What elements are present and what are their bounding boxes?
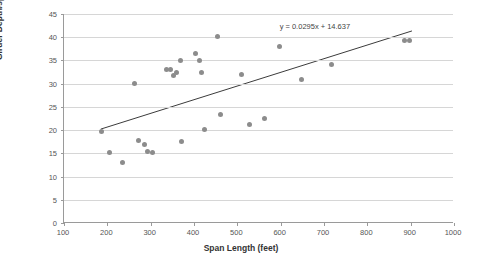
gridline-horizontal [64, 84, 453, 85]
y-tick-mark [61, 200, 64, 201]
y-tick-label: 25 [35, 102, 57, 111]
y-tick-mark [61, 84, 64, 85]
y-tick-label: 10 [35, 172, 57, 181]
data-point [202, 127, 207, 132]
x-axis-title: Span Length (feet) [0, 243, 482, 253]
x-tick-mark [107, 223, 108, 226]
gridline-horizontal [64, 14, 453, 15]
x-tick-mark [324, 223, 325, 226]
x-tick-label: 300 [133, 228, 167, 237]
data-point [168, 67, 173, 72]
data-point [407, 38, 412, 43]
x-tick-mark [367, 223, 368, 226]
x-tick-mark [151, 223, 152, 226]
y-tick-label: 30 [35, 79, 57, 88]
data-point [145, 149, 150, 154]
gridline-horizontal [64, 107, 453, 108]
data-point [107, 150, 112, 155]
x-tick-label: 200 [89, 228, 123, 237]
gridline-horizontal [64, 153, 453, 154]
x-tick-mark [64, 223, 65, 226]
data-point [136, 138, 141, 143]
y-tick-label: 0 [35, 219, 57, 228]
gridline-horizontal [64, 60, 453, 61]
x-tick-label: 700 [306, 228, 340, 237]
scatter-chart: Girder Depth/span Ratio at tower (1:) y … [0, 0, 482, 279]
gridline-horizontal [64, 37, 453, 38]
plot-area [63, 14, 453, 223]
gridline-horizontal [64, 177, 453, 178]
gridline-horizontal [64, 200, 453, 201]
y-tick-mark [61, 107, 64, 108]
gridline-horizontal [64, 130, 453, 131]
x-tick-mark [237, 223, 238, 226]
x-tick-label: 900 [393, 228, 427, 237]
y-tick-label: 5 [35, 195, 57, 204]
x-tick-label: 1000 [436, 228, 470, 237]
y-tick-label: 45 [35, 10, 57, 19]
x-tick-mark [454, 223, 455, 226]
y-tick-label: 15 [35, 149, 57, 158]
y-tick-mark [61, 60, 64, 61]
y-tick-mark [61, 37, 64, 38]
x-tick-label: 600 [263, 228, 297, 237]
x-tick-mark [281, 223, 282, 226]
trendline-equation: y = 0.0295x + 14.637 [280, 22, 350, 31]
x-tick-label: 400 [176, 228, 210, 237]
x-tick-mark [194, 223, 195, 226]
data-point [329, 62, 334, 67]
y-tick-mark [61, 153, 64, 154]
y-tick-mark [61, 130, 64, 131]
y-tick-label: 40 [35, 33, 57, 42]
x-tick-label: 100 [46, 228, 80, 237]
trendline [64, 14, 453, 222]
data-point [174, 70, 179, 75]
data-point [178, 58, 183, 63]
x-tick-label: 500 [219, 228, 253, 237]
data-point [132, 81, 137, 86]
data-point [142, 142, 147, 147]
y-tick-label: 35 [35, 56, 57, 65]
data-point [197, 58, 202, 63]
y-tick-label: 20 [35, 126, 57, 135]
data-point [247, 122, 252, 127]
x-tick-label: 800 [349, 228, 383, 237]
y-axis-title: Girder Depth/span Ratio at tower (1:) [0, 0, 4, 60]
y-tick-mark [61, 177, 64, 178]
y-tick-mark [61, 14, 64, 15]
x-tick-mark [411, 223, 412, 226]
